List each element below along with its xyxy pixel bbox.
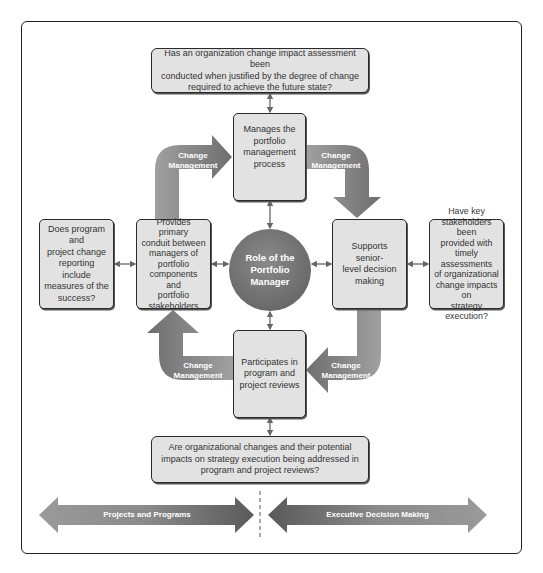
role-manages-portfolio-box: Manages the portfolio management process (233, 113, 306, 201)
role-line: components and (141, 269, 206, 290)
role-line: Supports senior- (337, 241, 402, 264)
center-label: Role of the Portfolio Manager (240, 252, 300, 288)
role-line: managers of (141, 248, 206, 259)
role-line: portfolio (141, 290, 206, 301)
top-question-line: conducted when justified by the degree o… (156, 71, 364, 83)
role-line: Participates in (239, 357, 299, 369)
role-participates-reviews-box: Participates in program and project revi… (233, 330, 306, 418)
change-management-label-bottom-right: Change Management (316, 361, 376, 380)
role-line: project reviews (239, 380, 299, 392)
role-line: stakeholders (141, 301, 206, 312)
left-question-line: Does program and (44, 224, 109, 247)
role-line: process (243, 159, 296, 171)
top-question-box: Has an organization change impact assess… (151, 48, 369, 93)
left-question-line: success? (44, 293, 109, 305)
left-question-line: project change (44, 247, 109, 259)
right-question-line: stakeholders been (434, 217, 499, 238)
bottom-question-line: Are organizational changes and their pot… (161, 442, 359, 454)
left-question-box: Does program and project change reportin… (39, 219, 114, 309)
projects-and-programs-label: Projects and Programs (58, 510, 236, 519)
right-question-box: Have key stakeholders been provided with… (429, 219, 504, 309)
right-question-line: timely assessments (434, 248, 499, 269)
role-line: portfolio (243, 136, 296, 148)
bottom-question-line: program and project reviews? (161, 465, 359, 477)
left-question-line: reporting include (44, 258, 109, 281)
role-line: Provides primary (141, 217, 206, 238)
bottom-question-line: impacts on strategy execution being addr… (161, 454, 359, 466)
change-management-label-bottom-left: Change Management (168, 361, 228, 380)
change-arrow-bottom-right (306, 309, 381, 393)
role-line: level decision (337, 264, 402, 276)
right-question-line: provided with (434, 238, 499, 249)
right-question-line: of organizational (434, 269, 499, 280)
role-line: making (337, 276, 402, 288)
change-arrow-top-left (155, 135, 232, 219)
role-supports-decision-box: Supports senior- level decision making (332, 219, 407, 309)
role-line: Manages the (243, 124, 296, 136)
bottom-question-box: Are organizational changes and their pot… (151, 436, 369, 483)
role-line: management (243, 147, 296, 159)
role-provides-conduit-box: Provides primary conduit between manager… (136, 219, 211, 309)
role-of-portfolio-manager-circle: Role of the Portfolio Manager (229, 229, 311, 311)
right-question-line: strategy execution? (434, 301, 499, 322)
role-line: portfolio (141, 259, 206, 270)
left-question-line: measures of the (44, 281, 109, 293)
top-question-line: required to achieve the future state? (156, 82, 364, 94)
top-question-line: Has an organization change impact assess… (156, 48, 364, 71)
change-management-label-top-right: Change Management (306, 151, 366, 170)
executive-decision-making-label: Executive Decision Making (287, 510, 468, 519)
role-line: program and (239, 368, 299, 380)
change-management-label-top-left: Change Management (163, 151, 223, 170)
right-question-line: Have key (434, 206, 499, 217)
role-line: conduit between (141, 238, 206, 249)
right-question-line: change impacts on (434, 280, 499, 301)
